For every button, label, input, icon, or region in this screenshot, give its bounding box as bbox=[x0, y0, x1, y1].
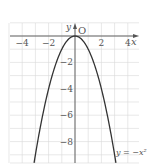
y-tick-label: −6 bbox=[60, 110, 74, 120]
curve-equation-label: y = −x² bbox=[115, 148, 147, 157]
y-tick-label: −2 bbox=[60, 57, 73, 67]
y-tick-label: −8 bbox=[60, 137, 74, 147]
x-tick-label: −4 bbox=[16, 38, 30, 48]
parabola-chart: −4−224−2−4−6−8 x y O y = −x² bbox=[0, 0, 162, 166]
x-tick-label: −2 bbox=[42, 38, 55, 48]
x-tick-label: 2 bbox=[99, 38, 105, 48]
axes bbox=[10, 23, 139, 163]
tick-labels: −4−224−2−4−6−8 bbox=[16, 38, 131, 147]
y-axis-label: y bbox=[65, 22, 72, 32]
x-axis-label: x bbox=[131, 36, 137, 47]
origin-label: O bbox=[78, 25, 86, 36]
y-tick-label: −4 bbox=[60, 84, 74, 94]
